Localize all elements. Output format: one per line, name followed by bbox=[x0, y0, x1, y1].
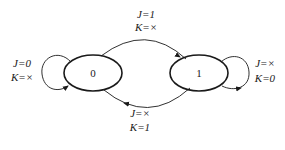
state-0-label: 0 bbox=[90, 67, 96, 79]
self-loop-1-label-j: J=× bbox=[255, 57, 275, 69]
state-1: 1 bbox=[170, 55, 228, 91]
state-1-label: 1 bbox=[196, 67, 202, 79]
self-loop-1-arrow bbox=[221, 57, 249, 89]
state-diagram: 0 1 J=1 K=× J=× K=1 J=0 K=× J=× K=0 bbox=[0, 0, 285, 150]
transition-0-to-1-label-k: K=× bbox=[134, 21, 157, 33]
self-loop-1-label-k: K=0 bbox=[254, 72, 276, 84]
state-0: 0 bbox=[64, 55, 122, 91]
transition-0-to-1-arrow bbox=[101, 40, 186, 59]
transition-1-to-0-arrow bbox=[104, 88, 190, 108]
self-loop-0-label-k: K=× bbox=[10, 71, 33, 83]
self-loop-0-arrow bbox=[42, 55, 71, 89]
transition-1-to-0-label-j: J=× bbox=[130, 107, 150, 119]
transition-0-to-1-label-j: J=1 bbox=[137, 8, 155, 20]
transition-1-to-0-label-k: K=1 bbox=[129, 121, 150, 133]
self-loop-0-label-j: J=0 bbox=[13, 57, 31, 69]
